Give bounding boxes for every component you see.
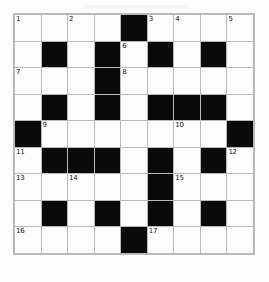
crossword-block-cell <box>227 121 253 147</box>
clue-number-4: 4 <box>175 15 179 24</box>
crossword-open-cell[interactable] <box>174 227 200 253</box>
clue-number-17: 17 <box>149 227 157 236</box>
clue-number-16: 16 <box>16 227 24 236</box>
crossword-open-cell[interactable]: 1 <box>15 15 41 41</box>
crossword-open-cell[interactable]: 17 <box>148 227 174 253</box>
crossword-block-cell <box>148 174 174 200</box>
crossword-open-cell[interactable] <box>42 174 68 200</box>
crossword-open-cell[interactable] <box>148 121 174 147</box>
clue-number-2: 2 <box>69 15 73 24</box>
clue-number-11: 11 <box>16 148 24 157</box>
crossword-open-cell[interactable]: 4 <box>174 15 200 41</box>
crossword-open-cell[interactable] <box>227 201 253 227</box>
crossword-block-cell <box>121 227 147 253</box>
crossword-block-cell <box>42 201 68 227</box>
clue-number-8: 8 <box>122 68 126 77</box>
crossword-block-cell <box>201 201 227 227</box>
crossword-block-cell <box>121 15 147 41</box>
crossword-open-cell[interactable] <box>201 174 227 200</box>
clue-number-13: 13 <box>16 174 24 183</box>
crossword-open-cell[interactable] <box>68 201 94 227</box>
crossword-block-cell <box>148 95 174 121</box>
crossword-open-cell[interactable] <box>227 174 253 200</box>
crossword-grid[interactable]: 1234567891011121314151617 <box>13 13 255 255</box>
crossword-block-cell <box>42 95 68 121</box>
crossword-open-cell[interactable]: 11 <box>15 148 41 174</box>
crossword-open-cell[interactable] <box>68 95 94 121</box>
crossword-open-cell[interactable]: 7 <box>15 68 41 94</box>
crossword-open-cell[interactable] <box>95 174 121 200</box>
crossword-open-cell[interactable] <box>42 68 68 94</box>
crossword-open-cell[interactable] <box>15 42 41 68</box>
crossword-block-cell <box>95 42 121 68</box>
crossword-open-cell[interactable] <box>68 121 94 147</box>
crossword-open-cell[interactable] <box>42 227 68 253</box>
crossword-open-cell[interactable] <box>174 68 200 94</box>
crossword-open-cell[interactable] <box>174 201 200 227</box>
crossword-block-cell <box>148 42 174 68</box>
crossword-open-cell[interactable] <box>15 201 41 227</box>
crossword-open-cell[interactable] <box>121 201 147 227</box>
crossword-open-cell[interactable]: 8 <box>121 68 147 94</box>
clue-number-1: 1 <box>16 15 20 24</box>
clue-number-14: 14 <box>69 174 77 183</box>
clue-number-3: 3 <box>149 15 153 24</box>
crossword-open-cell[interactable] <box>174 148 200 174</box>
crossword-open-cell[interactable] <box>227 95 253 121</box>
crossword-open-cell[interactable] <box>227 227 253 253</box>
crossword-open-cell[interactable] <box>95 121 121 147</box>
crossword-open-cell[interactable]: 3 <box>148 15 174 41</box>
crossword-open-cell[interactable] <box>121 148 147 174</box>
crossword-block-cell <box>15 121 41 147</box>
crossword-block-cell <box>201 148 227 174</box>
crossword-open-cell[interactable]: 15 <box>174 174 200 200</box>
crossword-block-cell <box>42 42 68 68</box>
crossword-open-cell[interactable] <box>42 15 68 41</box>
crossword-open-cell[interactable]: 10 <box>174 121 200 147</box>
clue-number-6: 6 <box>122 42 126 51</box>
clue-number-12: 12 <box>228 148 236 157</box>
crossword-open-cell[interactable] <box>201 15 227 41</box>
crossword-open-cell[interactable] <box>121 174 147 200</box>
crossword-open-cell[interactable] <box>148 68 174 94</box>
crossword-open-cell[interactable] <box>68 42 94 68</box>
crossword-block-cell <box>95 201 121 227</box>
crossword-block-cell <box>201 42 227 68</box>
crossword-block-cell <box>42 148 68 174</box>
crossword-block-cell <box>95 68 121 94</box>
crossword-open-cell[interactable] <box>121 95 147 121</box>
crossword-open-cell[interactable]: 12 <box>227 148 253 174</box>
crossword-block-cell <box>201 95 227 121</box>
crossword-open-cell[interactable]: 6 <box>121 42 147 68</box>
crossword-block-cell <box>95 95 121 121</box>
crossword-open-cell[interactable] <box>95 15 121 41</box>
crossword-open-cell[interactable] <box>201 68 227 94</box>
crossword-open-cell[interactable]: 5 <box>227 15 253 41</box>
crossword-open-cell[interactable]: 2 <box>68 15 94 41</box>
clue-number-7: 7 <box>16 68 20 77</box>
scan-artifact <box>84 5 188 9</box>
crossword-open-cell[interactable]: 13 <box>15 174 41 200</box>
crossword-open-cell[interactable] <box>15 95 41 121</box>
crossword-puzzle: 1234567891011121314151617 <box>0 0 269 282</box>
crossword-open-cell[interactable] <box>201 227 227 253</box>
crossword-block-cell <box>68 148 94 174</box>
crossword-open-cell[interactable] <box>227 68 253 94</box>
crossword-open-cell[interactable] <box>174 42 200 68</box>
clue-number-15: 15 <box>175 174 183 183</box>
crossword-open-cell[interactable] <box>201 121 227 147</box>
clue-number-9: 9 <box>43 121 47 130</box>
crossword-block-cell <box>95 148 121 174</box>
crossword-open-cell[interactable] <box>227 42 253 68</box>
clue-number-10: 10 <box>175 121 183 130</box>
crossword-open-cell[interactable] <box>121 121 147 147</box>
crossword-open-cell[interactable]: 14 <box>68 174 94 200</box>
clue-number-5: 5 <box>228 15 232 24</box>
crossword-block-cell <box>148 148 174 174</box>
crossword-open-cell[interactable]: 9 <box>42 121 68 147</box>
crossword-open-cell[interactable] <box>68 227 94 253</box>
crossword-open-cell[interactable] <box>68 68 94 94</box>
crossword-open-cell[interactable]: 16 <box>15 227 41 253</box>
crossword-block-cell <box>148 201 174 227</box>
crossword-open-cell[interactable] <box>95 227 121 253</box>
